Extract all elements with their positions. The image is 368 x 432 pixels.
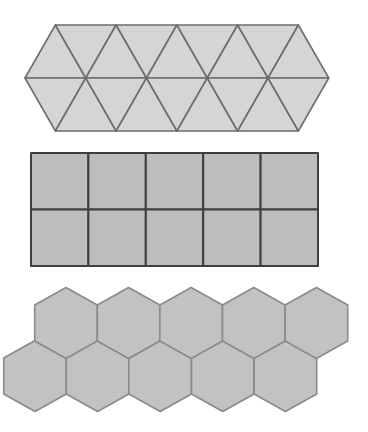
- square: [31, 210, 88, 267]
- square: [261, 153, 318, 210]
- square: [261, 210, 318, 267]
- square: [31, 153, 88, 210]
- square: [203, 153, 260, 210]
- square: [146, 153, 203, 210]
- square-tessellation: [31, 153, 318, 266]
- hexagon-tessellation: [4, 288, 348, 412]
- triangle-tessellation: [25, 25, 329, 131]
- square: [88, 153, 145, 210]
- square: [203, 210, 260, 267]
- tessellation-diagram: [0, 0, 368, 432]
- square: [146, 210, 203, 267]
- figure: [0, 0, 368, 432]
- square: [88, 210, 145, 267]
